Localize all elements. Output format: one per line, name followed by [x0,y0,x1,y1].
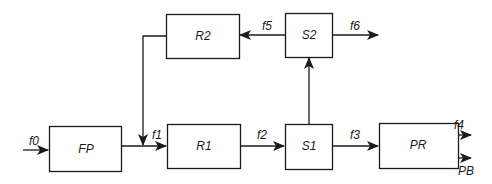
flow-label-f5: f5 [262,19,272,33]
flow-label-f0: f0 [29,134,39,148]
flow-label-f3: f3 [350,128,360,142]
flow-label-f4: f4 [454,118,464,132]
flow-label-pb: PB [458,164,474,178]
block-r1-label: R1 [196,139,211,153]
block-r2-label: R2 [195,29,211,43]
block-pr: PR [380,124,459,169]
block-r1: R1 [168,125,241,169]
block-s2: S2 [286,14,333,58]
block-r2: R2 [167,15,240,59]
block-s1-label: S1 [302,139,317,153]
block-fp-label: FP [78,142,93,156]
flow-diagram: R2 S2 FP R1 S1 PR f0 f1 f2 f3 f4 PB f5 f… [0,0,492,184]
flow-label-f6: f6 [350,19,360,33]
block-pr-label: PR [410,138,427,152]
flow-label-f1: f1 [152,128,162,142]
block-s2-label: S2 [302,28,317,42]
block-fp: FP [50,127,122,172]
flow-label-f2: f2 [257,128,267,142]
block-s1: S1 [286,125,333,170]
